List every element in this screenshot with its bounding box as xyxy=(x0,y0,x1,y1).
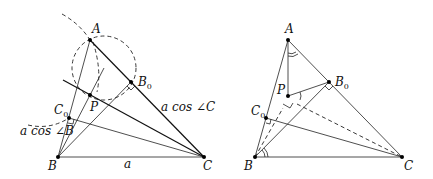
dashed-P-C xyxy=(297,104,402,157)
line-P-C-extended xyxy=(63,80,204,157)
dashed-arc-large xyxy=(62,14,90,40)
side-AB xyxy=(255,40,288,157)
right-angle-P xyxy=(283,103,293,108)
label-side-a: a xyxy=(124,157,131,171)
label-A: A xyxy=(284,22,294,36)
line-P-B0 xyxy=(288,82,329,96)
label-P: P xyxy=(89,100,99,114)
label-B0: B0 xyxy=(334,75,349,91)
label-C: C xyxy=(404,159,413,173)
right-figure: A B0 P C0 B C xyxy=(243,22,413,173)
left-figure: A B0 P C0 B C a a cos ∠C a cos ∠B xyxy=(20,14,215,173)
line-C-C0 xyxy=(69,118,204,157)
line-C-C0 xyxy=(266,118,402,157)
angle-arc-A-inner xyxy=(288,52,296,54)
point-P xyxy=(286,94,290,98)
point-B xyxy=(253,155,257,159)
point-A xyxy=(88,38,92,42)
label-a-cos-C: a cos ∠C xyxy=(161,100,215,114)
angle-arc-B-inner xyxy=(262,150,265,157)
point-A xyxy=(286,38,290,42)
label-B: B xyxy=(243,159,253,173)
angle-arc-A-outer xyxy=(288,54,298,57)
label-P: P xyxy=(276,83,286,97)
label-a-cos-B: a cos ∠B xyxy=(20,124,74,138)
point-B0 xyxy=(327,80,331,84)
label-C: C xyxy=(203,159,212,173)
point-P xyxy=(88,93,92,97)
side-AC xyxy=(90,40,204,157)
geometry-diagram: A B0 P C0 B C a a cos ∠C a cos ∠B xyxy=(0,0,433,179)
label-B0: B0 xyxy=(137,75,152,91)
label-B: B xyxy=(47,159,57,173)
label-C0: C0 xyxy=(54,103,68,119)
label-A: A xyxy=(91,22,101,36)
angle-arc-P-B0 xyxy=(300,92,301,100)
side-AB xyxy=(58,40,90,157)
point-B0 xyxy=(129,80,133,84)
right-angle-B0 xyxy=(325,86,333,90)
side-AC xyxy=(288,40,402,157)
label-C0: C0 xyxy=(251,104,265,120)
